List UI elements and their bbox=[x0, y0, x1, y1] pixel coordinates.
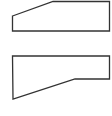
top-shape bbox=[13, 2, 110, 32]
diagram-canvas bbox=[0, 0, 112, 116]
bottom-shape bbox=[13, 56, 110, 99]
